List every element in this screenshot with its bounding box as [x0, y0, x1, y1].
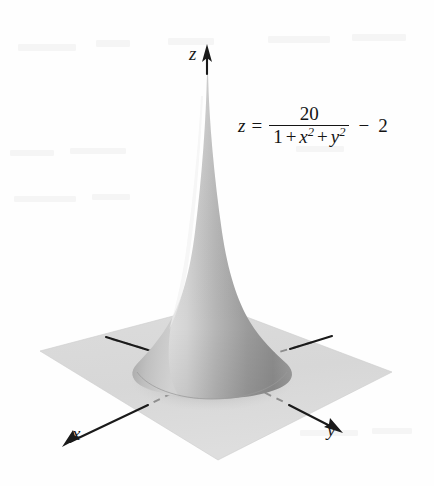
- equation-denominator: 1+x2+y2: [269, 126, 349, 147]
- equation-constant: 2: [378, 115, 388, 137]
- equation-equals-sign: =: [251, 115, 262, 137]
- equation-minus-sign: −: [358, 115, 369, 137]
- denominator-plus-1: +: [286, 126, 297, 147]
- equation-annotation: z = 20 1+x2+y2 − 2: [238, 104, 388, 147]
- equation-fraction: 20 1+x2+y2: [269, 104, 349, 147]
- equation-lhs: z: [238, 115, 245, 137]
- denominator-y: y: [331, 126, 339, 147]
- z-axis-label: z: [189, 44, 196, 63]
- denominator-plus-2: +: [317, 126, 328, 147]
- equation-numerator: 20: [294, 104, 325, 125]
- surface-plot-figure: z x y z = 20 1+x2+y2 − 2: [0, 0, 434, 486]
- x-axis-front-visible: [70, 405, 148, 442]
- denominator-one: 1: [273, 126, 283, 147]
- denominator-x: x: [299, 126, 307, 147]
- denominator-y-exponent: 2: [339, 125, 345, 139]
- surface-plot-canvas: [0, 0, 434, 486]
- y-axis-label: y: [327, 420, 335, 439]
- denominator-x-exponent: 2: [308, 125, 314, 139]
- x-axis-label: x: [72, 424, 80, 443]
